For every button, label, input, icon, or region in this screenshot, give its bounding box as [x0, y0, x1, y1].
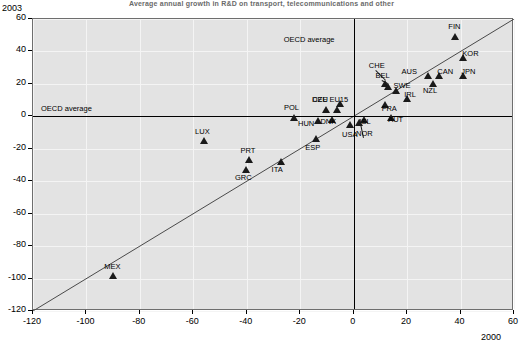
x-axis-tick-label: 20	[386, 316, 426, 326]
oecd-average-horizontal-line	[33, 116, 512, 117]
data-point-label: GRC	[235, 174, 252, 182]
data-point-label: AUT	[388, 116, 403, 124]
y-axis-tick	[28, 50, 32, 51]
x-axis-tick-label: 0	[333, 316, 373, 326]
x-axis-tick	[85, 310, 86, 314]
y-axis-tick-label: 60	[0, 12, 26, 22]
data-point-label: EU15	[329, 96, 348, 104]
x-axis-tick-label: 60	[493, 316, 523, 326]
data-point-label: DEU	[312, 96, 328, 104]
data-point-label: ITA	[272, 166, 283, 174]
data-point-label: USA	[342, 131, 357, 139]
data-point-label: NZL	[423, 87, 437, 95]
plot-area: FINKORAUSCANJPNNZLCHEBELSWEIRLFRACZEDEUE…	[32, 18, 513, 310]
x-axis-tick	[246, 310, 247, 314]
y-axis-tick-label: -40	[0, 174, 26, 184]
x-axis-tick	[299, 310, 300, 314]
data-point-label: KOR	[462, 50, 478, 58]
x-axis-tick-label: -40	[226, 316, 266, 326]
data-point-marker	[312, 135, 320, 142]
y-axis-tick-label: -80	[0, 239, 26, 249]
y-axis-tick	[28, 278, 32, 279]
y-axis-tick	[28, 83, 32, 84]
data-point-label: NOR	[356, 130, 373, 138]
data-point-label: CAN	[437, 68, 453, 76]
y-axis-tick-label: -60	[0, 207, 26, 217]
x-axis-tick	[406, 310, 407, 314]
y-axis-tick	[28, 245, 32, 246]
data-point-label: MEX	[104, 263, 120, 271]
data-point-marker	[384, 83, 392, 90]
data-point-label: LUX	[195, 128, 210, 136]
x-axis-tick-label: -60	[172, 316, 212, 326]
data-point-marker	[424, 72, 432, 79]
data-point-marker	[245, 156, 253, 163]
gridline-horizontal	[33, 311, 512, 312]
data-point-label: CHE	[369, 62, 385, 70]
y-axis-tick-label: 20	[0, 77, 26, 87]
data-point-label: FRA	[382, 105, 397, 113]
y-axis-tick-label: -20	[0, 142, 26, 152]
y-axis-tick-label: 40	[0, 44, 26, 54]
y-axis-tick	[28, 180, 32, 181]
data-point-label: ESP	[305, 144, 320, 152]
data-point-marker	[333, 106, 341, 113]
y-axis-tick	[28, 18, 32, 19]
data-point-label: JPN	[461, 68, 475, 76]
x-axis-tick-label: -20	[279, 316, 319, 326]
data-point-marker	[242, 166, 250, 173]
data-point-marker	[451, 33, 459, 40]
x-axis-tick	[139, 310, 140, 314]
data-point-label: AUS	[402, 68, 417, 76]
data-point-label: PRT	[241, 147, 256, 155]
y-axis-tick	[28, 148, 32, 149]
data-point-marker	[109, 272, 117, 279]
data-point-label: FIN	[448, 23, 460, 31]
y-axis-tick-label: -120	[0, 304, 26, 314]
data-point-label: DNK	[320, 118, 336, 126]
y-axis-tick	[28, 213, 32, 214]
x-axis-tick	[353, 310, 354, 314]
x-axis-tick-label: 40	[440, 316, 480, 326]
x-axis-tick	[192, 310, 193, 314]
data-point-marker	[277, 158, 285, 165]
y-axis-tick	[28, 310, 32, 311]
data-point-marker	[322, 106, 330, 113]
data-point-label: BEL	[376, 72, 390, 80]
data-point-label: POL	[284, 104, 299, 112]
oecd-average-vertical-line	[354, 19, 355, 309]
oecd-average-label-vertical: OECD average	[282, 35, 337, 44]
x-axis-tick-label: -100	[65, 316, 105, 326]
data-point-label: HUN	[298, 120, 314, 128]
y-axis-tick-label: 0	[0, 109, 26, 119]
x-axis-tick	[32, 310, 33, 314]
x-axis-tick	[513, 310, 514, 314]
y-axis-tick	[28, 115, 32, 116]
data-point-label: SWE	[394, 82, 411, 90]
x-axis-corner-label: 2000	[481, 332, 501, 342]
x-axis-tick-label: -120	[12, 316, 52, 326]
data-point-marker	[200, 137, 208, 144]
data-point-label: IRL	[404, 91, 416, 99]
x-axis-tick-label: -80	[119, 316, 159, 326]
gridline-vertical	[514, 19, 515, 309]
chart-title: Average annual growth in R&D on transpor…	[0, 0, 523, 8]
data-point-marker	[346, 121, 354, 128]
y-axis-tick-label: -100	[0, 272, 26, 282]
x-axis-tick	[460, 310, 461, 314]
oecd-average-label-horizontal: OECD average	[39, 104, 94, 113]
